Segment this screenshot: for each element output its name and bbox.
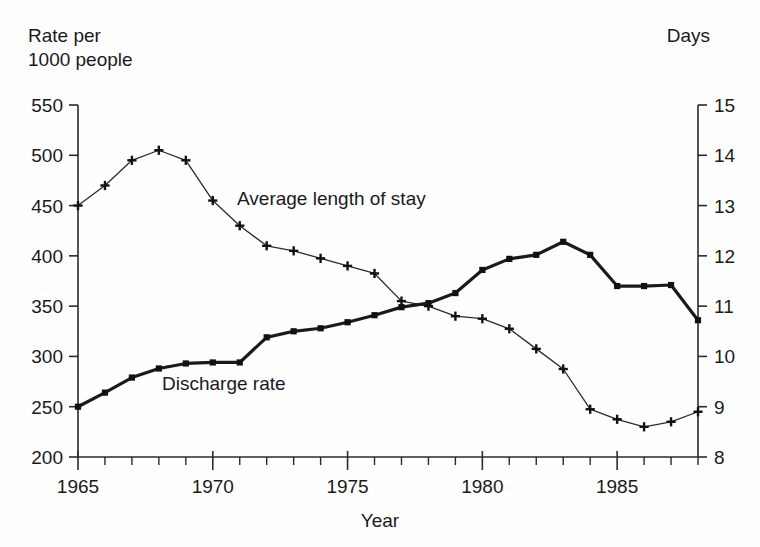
data-point-average-length-of-stay xyxy=(666,417,675,426)
x-tick-label: 1980 xyxy=(461,476,503,497)
right-tick-label: 8 xyxy=(714,447,725,468)
data-point-discharge-rate xyxy=(452,290,458,296)
data-point-average-length-of-stay xyxy=(316,254,325,263)
left-axis-title-line1: Rate per xyxy=(28,25,102,46)
right-tick-label: 14 xyxy=(714,145,736,166)
data-point-average-length-of-stay xyxy=(451,312,460,321)
left-axis-title-line2: 1000 people xyxy=(28,49,133,70)
data-point-discharge-rate xyxy=(398,304,404,310)
data-point-average-length-of-stay xyxy=(586,405,595,414)
x-axis-tick-labels: 19651970197519801985 xyxy=(57,476,638,497)
right-tick-label: 13 xyxy=(714,196,735,217)
x-axis-ticks xyxy=(78,451,698,470)
chart-canvas: Rate per 1000 people Days 20025030035040… xyxy=(0,0,760,547)
left-tick-label: 350 xyxy=(31,296,63,317)
data-point-discharge-rate xyxy=(668,282,674,288)
data-point-discharge-rate xyxy=(156,365,162,371)
data-point-average-length-of-stay xyxy=(559,364,568,373)
right-tick-label: 11 xyxy=(714,296,734,317)
data-point-discharge-rate xyxy=(183,360,189,366)
data-point-average-length-of-stay xyxy=(693,407,702,416)
data-point-discharge-rate xyxy=(641,283,647,289)
x-tick-label: 1985 xyxy=(596,476,638,497)
right-axis-title: Days xyxy=(667,25,710,46)
right-axis-ticks xyxy=(698,105,707,457)
data-point-discharge-rate xyxy=(264,334,270,340)
data-point-discharge-rate xyxy=(291,328,297,334)
data-point-discharge-rate xyxy=(587,252,593,258)
data-point-average-length-of-stay xyxy=(154,146,163,155)
series-label-average-length-of-stay: Average length of stay xyxy=(237,188,426,209)
data-point-discharge-rate xyxy=(318,325,324,331)
data-point-discharge-rate xyxy=(344,319,350,325)
data-point-average-length-of-stay xyxy=(613,415,622,424)
left-tick-label: 250 xyxy=(31,397,63,418)
left-axis-tick-labels: 200250300350400450500550 xyxy=(31,95,63,468)
left-tick-label: 500 xyxy=(31,145,63,166)
data-point-average-length-of-stay xyxy=(343,261,352,270)
data-point-discharge-rate xyxy=(695,317,701,323)
right-axis-tick-labels: 89101112131415 xyxy=(714,95,736,468)
data-point-average-length-of-stay xyxy=(262,241,271,250)
data-point-discharge-rate xyxy=(75,404,81,410)
data-point-average-length-of-stay xyxy=(639,422,648,431)
left-tick-label: 300 xyxy=(31,346,63,367)
data-point-discharge-rate xyxy=(614,283,620,289)
left-tick-label: 400 xyxy=(31,246,63,267)
left-tick-label: 550 xyxy=(31,95,63,116)
data-point-average-length-of-stay xyxy=(289,246,298,255)
x-tick-label: 1975 xyxy=(326,476,368,497)
data-point-average-length-of-stay xyxy=(505,324,514,333)
right-tick-label: 10 xyxy=(714,346,735,367)
chart-figure: Rate per 1000 people Days 20025030035040… xyxy=(0,0,760,547)
x-tick-label: 1965 xyxy=(57,476,99,497)
data-point-discharge-rate xyxy=(479,267,485,273)
data-point-discharge-rate xyxy=(533,252,539,258)
left-tick-label: 450 xyxy=(31,196,63,217)
data-point-average-length-of-stay xyxy=(532,344,541,353)
data-point-discharge-rate xyxy=(129,374,135,380)
data-point-discharge-rate xyxy=(371,312,377,318)
data-point-average-length-of-stay xyxy=(181,156,190,165)
right-tick-label: 15 xyxy=(714,95,735,116)
data-point-discharge-rate xyxy=(506,256,512,262)
data-point-average-length-of-stay xyxy=(73,201,82,210)
left-tick-label: 200 xyxy=(31,447,63,468)
right-tick-label: 12 xyxy=(714,246,735,267)
data-point-discharge-rate xyxy=(560,239,566,245)
x-tick-label: 1970 xyxy=(192,476,234,497)
data-point-discharge-rate xyxy=(210,359,216,365)
data-point-discharge-rate xyxy=(102,390,108,396)
data-point-discharge-rate xyxy=(237,359,243,365)
x-axis-title: Year xyxy=(361,510,400,531)
right-tick-label: 9 xyxy=(714,397,725,418)
data-point-average-length-of-stay xyxy=(478,314,487,323)
series-label-discharge-rate: Discharge rate xyxy=(162,373,286,394)
data-point-discharge-rate xyxy=(425,300,431,306)
